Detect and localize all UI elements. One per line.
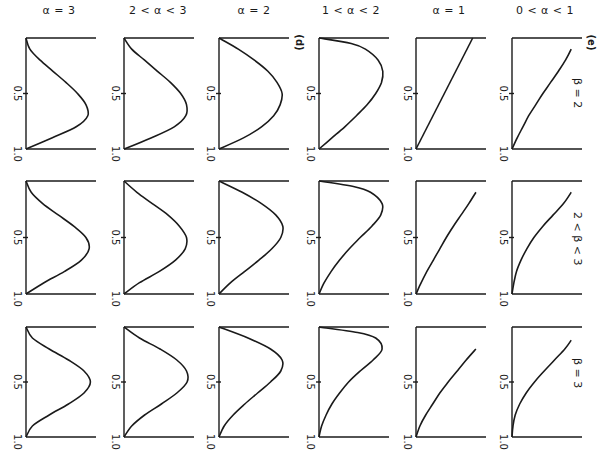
tick-label-mid: 0.5	[12, 230, 23, 246]
tick-label-mid: 0.5	[205, 230, 216, 246]
curve	[26, 181, 89, 294]
panel: 0.51.0	[402, 38, 486, 162]
tick-label-mid: 0.5	[12, 86, 23, 102]
tick-label-mid: 0.5	[205, 86, 216, 102]
tick-label-end: 1.0	[305, 146, 316, 162]
panel: 0.51.0	[402, 181, 486, 307]
tick-label-end: 1.0	[12, 291, 23, 307]
tick-label-end: 1.0	[402, 291, 413, 307]
panel-grid: 0.51.00.51.00.51.00.51.00.51.00.51.00.51…	[0, 0, 611, 476]
curve	[124, 181, 187, 294]
tick-label-end: 1.0	[110, 434, 121, 450]
tick-label-end: 1.0	[498, 434, 509, 450]
panel: 0.51.0	[305, 327, 389, 450]
panel: 0.51.0	[12, 327, 96, 450]
tick-label-mid: 0.5	[305, 230, 316, 246]
panel: 0.51.0	[110, 38, 194, 162]
tick-label-mid: 0.5	[110, 374, 121, 390]
tick-label-mid: 0.5	[110, 86, 121, 102]
tick-label-mid: 0.5	[305, 86, 316, 102]
tick-label-end: 1.0	[498, 146, 509, 162]
tick-label-end: 1.0	[205, 291, 216, 307]
tick-label-end: 1.0	[402, 146, 413, 162]
panel: 0.51.0	[305, 181, 389, 307]
tick-label-end: 1.0	[402, 434, 413, 450]
curve	[219, 327, 283, 437]
tick-label-mid: 0.5	[498, 86, 509, 102]
tick-label-mid: 0.5	[305, 374, 316, 390]
tick-label-mid: 0.5	[12, 374, 23, 390]
curve	[416, 349, 476, 437]
tick-label-end: 1.0	[305, 434, 316, 450]
curve	[416, 38, 473, 149]
panel: 0.51.0	[12, 38, 96, 162]
curve	[26, 38, 88, 149]
panel: 0.51.0	[205, 181, 289, 307]
curve	[219, 181, 283, 294]
tick-label-mid: 0.5	[498, 374, 509, 390]
panel: 0.51.0	[498, 327, 582, 450]
curve	[319, 327, 382, 437]
tick-label-mid: 0.5	[402, 86, 413, 102]
tick-label-end: 1.0	[205, 434, 216, 450]
tick-label-end: 1.0	[12, 146, 23, 162]
curve	[219, 38, 282, 149]
tick-label-end: 1.0	[205, 146, 216, 162]
tick-label-end: 1.0	[110, 291, 121, 307]
curve	[512, 340, 571, 437]
tick-label-mid: 0.5	[205, 374, 216, 390]
panel: 0.51.0	[110, 327, 194, 450]
panel: 0.51.0	[402, 327, 486, 450]
panel: 0.51.0	[498, 38, 582, 162]
tick-label-mid: 0.5	[402, 374, 413, 390]
curve	[124, 38, 187, 149]
curve	[26, 327, 90, 437]
panel: 0.51.0	[305, 38, 389, 162]
curve	[416, 192, 476, 294]
panel: 0.51.0	[110, 181, 194, 307]
curve	[319, 38, 383, 149]
curve	[319, 181, 383, 294]
tick-label-mid: 0.5	[110, 230, 121, 246]
curve	[512, 49, 571, 149]
tick-label-end: 1.0	[110, 146, 121, 162]
panel: 0.51.0	[498, 181, 582, 307]
tick-label-end: 1.0	[305, 291, 316, 307]
curve	[124, 327, 188, 437]
tick-label-end: 1.0	[498, 291, 509, 307]
panel: 0.51.0	[205, 327, 289, 450]
panel: 0.51.0	[205, 38, 289, 162]
tick-label-mid: 0.5	[402, 230, 413, 246]
curve	[512, 192, 571, 294]
panel: 0.51.0	[12, 181, 96, 307]
tick-label-mid: 0.5	[498, 230, 509, 246]
tick-label-end: 1.0	[12, 434, 23, 450]
